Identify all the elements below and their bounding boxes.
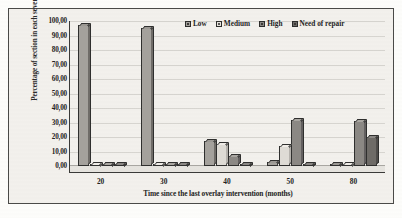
- x-axis-title: Time since the last overlay intervention…: [49, 189, 387, 198]
- y-axis-tick-label: 40,00: [52, 104, 67, 112]
- bar: [279, 146, 290, 166]
- bar-group: [70, 21, 133, 166]
- bar-groups: [70, 21, 385, 166]
- bar-group: [259, 21, 322, 166]
- bar-group: [133, 21, 196, 166]
- chart-frame: Percentage of section in each severity l…: [8, 8, 394, 204]
- legend-item: Need of repair: [292, 19, 345, 28]
- bar: [153, 164, 164, 166]
- bar: [267, 162, 278, 166]
- plot-wrapper: Percentage of section in each severity l…: [9, 9, 393, 203]
- bar: [177, 164, 188, 166]
- bar: [240, 164, 251, 166]
- x-axis-tick-label: 40: [195, 177, 258, 186]
- bar: [354, 121, 365, 166]
- y-axis-tick-label: 90,00: [52, 32, 67, 40]
- chart-legend: LowMediumHighNeed of repair: [185, 19, 344, 28]
- bar: [342, 164, 353, 166]
- x-axis-tick-label: 50: [259, 177, 322, 186]
- bar: [303, 164, 314, 166]
- y-axis-tick-label: 20,00: [52, 133, 67, 141]
- legend-swatch-icon: [216, 21, 222, 27]
- bar: [216, 144, 227, 166]
- bar-group: [322, 21, 385, 166]
- chart-screenshot: Percentage of section in each severity l…: [0, 0, 402, 218]
- x-axis-tick-label: 20: [69, 177, 132, 186]
- legend-swatch-icon: [259, 21, 265, 27]
- bar: [291, 120, 302, 166]
- legend-item: Medium: [216, 19, 250, 28]
- y-axis-tick-label: 50,00: [52, 90, 67, 98]
- x-axis-tick-label: 30: [132, 177, 195, 186]
- legend-label: High: [267, 19, 282, 28]
- y-axis-tick-label: 0,00: [55, 162, 67, 170]
- y-axis-tick-labels: 0,0010,0020,0030,0040,0050,0060,0070,008…: [35, 21, 67, 173]
- bar: [114, 164, 125, 166]
- legend-item: Low: [185, 19, 207, 28]
- y-axis-tick-label: 100,00: [48, 17, 67, 25]
- legend-swatch-icon: [185, 21, 191, 27]
- bar: [366, 137, 377, 166]
- bar: [78, 25, 89, 166]
- legend-item: High: [259, 19, 282, 28]
- bar-group: [196, 21, 259, 166]
- x-axis-tick-labels: 2030405080: [69, 177, 385, 186]
- y-axis-tick-label: 80,00: [52, 46, 67, 54]
- bar: [228, 156, 239, 166]
- bar: [204, 141, 215, 166]
- legend-label: Need of repair: [300, 19, 345, 28]
- legend-swatch-icon: [292, 21, 298, 27]
- y-axis-tick-label: 30,00: [52, 119, 67, 127]
- plot-area: [69, 21, 385, 173]
- x-axis-line: [69, 172, 385, 173]
- bar: [330, 164, 341, 166]
- y-axis-tick-label: 60,00: [52, 75, 67, 83]
- y-axis-tick-label: 70,00: [52, 61, 67, 69]
- x-axis-tick-label: 80: [322, 177, 385, 186]
- y-axis-tick-label: 10,00: [52, 148, 67, 156]
- bar: [165, 164, 176, 166]
- bar: [141, 28, 152, 166]
- legend-label: Low: [193, 19, 207, 28]
- legend-label: Medium: [224, 19, 250, 28]
- bar: [102, 164, 113, 166]
- bar: [90, 164, 101, 166]
